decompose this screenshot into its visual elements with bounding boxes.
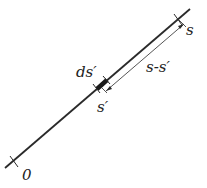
label-element: ds′ [76, 63, 97, 81]
dimension-extension-start [101, 87, 107, 93]
end-tick [174, 14, 182, 25]
label-origin: 0 [22, 166, 32, 184]
label-end: s [186, 21, 194, 39]
diagram-canvas: 0 s ds′ s′ s-s′ [0, 0, 207, 188]
dimension-line [106, 24, 184, 91]
label-position: s′ [97, 98, 109, 116]
label-distance: s-s′ [146, 58, 170, 76]
